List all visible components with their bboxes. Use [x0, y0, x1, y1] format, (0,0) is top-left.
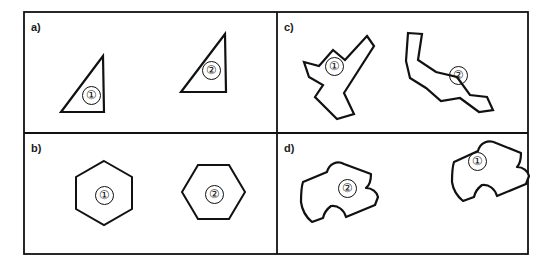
panel-c-shape-1 — [304, 36, 374, 119]
shape-tag-a2: ② — [202, 61, 221, 80]
shape-tag-b1: ① — [95, 186, 114, 205]
panel-d-shapes — [301, 141, 529, 222]
figure-canvas — [0, 0, 554, 269]
figure-container: a) b) c) d) ① ② ① ② ① ② ② ① — [0, 0, 554, 269]
shape-tag-a1: ① — [82, 86, 101, 105]
shape-tag-d1: ① — [468, 152, 487, 171]
panel-label-b: b) — [31, 143, 41, 154]
panel-label-d: d) — [284, 143, 294, 154]
shape-tag-c2: ② — [449, 66, 468, 85]
shape-tag-b2: ② — [205, 185, 224, 204]
panel-d-shape-1 — [452, 141, 529, 201]
panel-label-c: c) — [284, 22, 294, 33]
panel-label-a: a) — [31, 22, 41, 33]
panel-a-shape-2 — [181, 34, 226, 92]
panel-a-shape-1 — [61, 56, 104, 112]
shape-tag-c1: ① — [325, 57, 344, 76]
shape-tag-d2: ② — [338, 179, 357, 198]
